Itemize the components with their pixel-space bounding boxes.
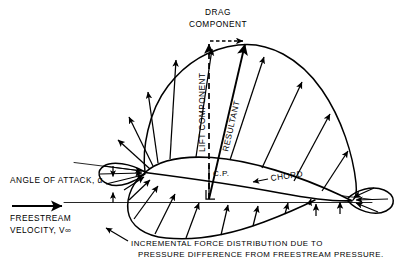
drag-label-line1: DRAG: [205, 7, 231, 17]
lower-vector-5: [221, 205, 228, 235]
caption-line2: PRESSURE DIFFERENCE FROM FREESTREAM PRES…: [138, 250, 384, 259]
resultant-label: RESULTANT: [220, 99, 241, 152]
le-vector-2: [100, 173, 142, 174]
freestream-label-line1: FREESTREAM: [10, 213, 71, 223]
text-labels: DRAG COMPONENT LIFT COMPONENT RESULTANT …: [10, 7, 384, 259]
lift-component-label: LIFT COMPONENT: [197, 73, 207, 152]
airfoil-section: [145, 157, 352, 201]
caption-line1: INCREMENTAL FORCE DISTRIBUTION DUE TO: [131, 239, 323, 248]
freestream-label-line2: VELOCITY, V∞: [10, 225, 71, 235]
lower-vector-1: [129, 180, 150, 200]
airfoil-pressure-diagram: DRAG COMPONENT LIFT COMPONENT RESULTANT …: [0, 0, 414, 267]
upper-vector-3: [148, 92, 158, 163]
leading-edge-vectors: [100, 166, 144, 190]
le-vector-1: [104, 166, 142, 171]
upper-vector-9: [322, 151, 348, 191]
lower-vector-6: [253, 206, 258, 226]
te-vector-3: [356, 203, 378, 212]
upper-vector-7: [262, 82, 302, 168]
center-of-pressure-label: C.P.: [213, 169, 230, 178]
te-vector-2: [356, 199, 388, 200]
upper-vector-4: [170, 60, 176, 159]
caption-leader-arrow: [106, 228, 128, 241]
pressure-envelope: [99, 44, 393, 238]
angle-of-attack-label: ANGLE OF ATTACK, α: [10, 175, 103, 185]
lower-vector-4: [186, 203, 199, 238]
diagram-canvas: DRAG COMPONENT LIFT COMPONENT RESULTANT …: [0, 0, 414, 267]
drag-label-line2: COMPONENT: [189, 19, 247, 29]
lower-vector-3: [155, 194, 175, 234]
